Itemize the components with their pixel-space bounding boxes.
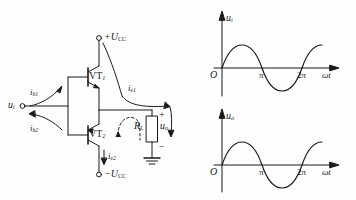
figure-root: +UCC −UCC VT1 VT2 ui uo RL ib1 ib2 ie1 i… xyxy=(0,0,356,200)
uo-xtick-2pi: 2π xyxy=(297,168,306,177)
uo-x-axis-arrowhead xyxy=(330,162,339,168)
uo-y-axis-label: uo xyxy=(226,111,234,122)
uo-origin-label: O xyxy=(210,167,217,177)
uo-xtick-pi: π xyxy=(259,168,264,177)
uo-x-axis-label: ωt xyxy=(322,168,331,177)
uo-y-axis-arrowhead xyxy=(219,109,225,118)
